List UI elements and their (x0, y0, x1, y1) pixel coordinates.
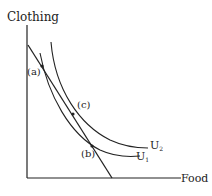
point-b-label: (b) (81, 149, 95, 159)
budget-line (28, 45, 112, 178)
curve-u2-label: U2 (150, 140, 163, 152)
point-c-marker (71, 112, 74, 115)
y-axis-label: Clothing (7, 11, 59, 23)
indifference-diagram (0, 0, 212, 196)
curve-u2-subscript: 2 (159, 145, 163, 152)
curve-u1-subscript: 1 (145, 156, 149, 163)
x-axis-label: Food (181, 173, 208, 184)
curve-u1-label: U1 (136, 151, 149, 163)
point-a-label: (a) (27, 67, 41, 77)
indifference-curve-u2 (51, 42, 148, 148)
curve-u2-name: U (150, 139, 159, 152)
curve-u1-name: U (136, 150, 145, 163)
point-c-label: (c) (77, 100, 90, 110)
